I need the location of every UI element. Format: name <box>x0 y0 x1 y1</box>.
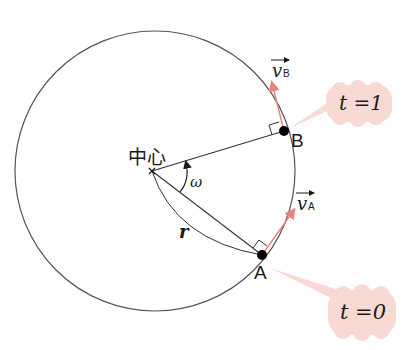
radius-line-to-b <box>152 131 284 171</box>
point-a-label: A <box>254 262 267 283</box>
velocity-label-b: v B <box>271 60 290 81</box>
velocity-label-a: v A <box>296 193 315 214</box>
svg-text:B: B <box>283 68 290 79</box>
velocity-arrow-a <box>262 210 294 255</box>
orbit-circle <box>15 31 295 311</box>
svg-text:A: A <box>308 201 315 212</box>
omega-arc-icon <box>180 162 187 192</box>
circular-motion-diagram: 中心 ω r B A v B v A t =1 t =0 <box>0 0 415 350</box>
point-a <box>257 250 267 260</box>
center-label: 中心 <box>128 146 166 168</box>
right-angle-marker-a <box>253 240 267 248</box>
svg-text:v: v <box>297 193 307 214</box>
svg-text:v: v <box>272 60 282 81</box>
center-marker-icon <box>149 168 155 174</box>
radius-line-to-a <box>152 171 262 255</box>
point-b <box>279 126 289 136</box>
point-b-label: B <box>291 130 304 151</box>
time-label-b: t =1 <box>339 91 383 115</box>
radius-label: r <box>179 221 190 242</box>
time-label-a: t =0 <box>340 300 386 324</box>
omega-label: ω <box>190 173 202 191</box>
